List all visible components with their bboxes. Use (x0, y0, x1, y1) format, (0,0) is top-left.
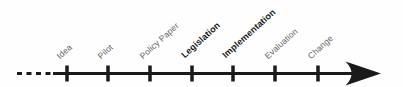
policy-timeline-diagram: IdeaPilotPolicy PaperLegislationImplemen… (0, 0, 403, 87)
